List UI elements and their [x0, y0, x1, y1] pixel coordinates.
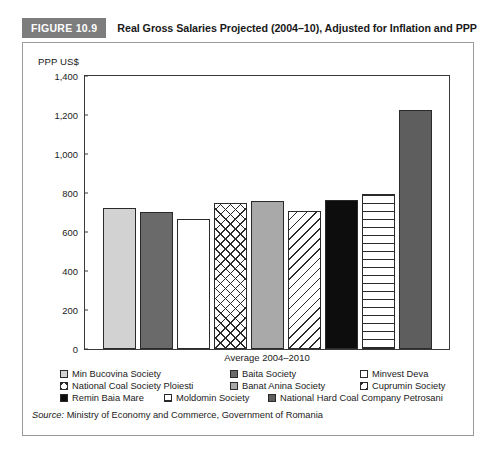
- legend-item: Moldomin Society: [164, 393, 268, 403]
- y-axis-tick-label: 1,200: [55, 110, 85, 121]
- figure-title: Real Gross Salaries Projected (2004–10),…: [106, 18, 477, 38]
- bar: [399, 110, 432, 349]
- y-axis-tick-label: 1,000: [55, 149, 85, 160]
- chart-legend: Min Bucovina SocietyBaita SocietyMinvest…: [60, 369, 458, 405]
- bar: [177, 219, 210, 349]
- legend-item: Minvest Deva: [360, 369, 428, 379]
- y-axis-tick-label: 600: [62, 227, 85, 238]
- legend-item-label: Baita Society: [242, 369, 296, 379]
- y-axis-title: PPP US$: [38, 56, 79, 67]
- bar: [103, 208, 136, 349]
- legend-swatch-icon: [230, 370, 238, 378]
- legend-item: National Coal Society Ploiesti: [60, 381, 230, 391]
- y-axis-tick-label: 1,400: [55, 71, 85, 82]
- source-label: Source:: [32, 410, 64, 420]
- bar: [288, 211, 321, 349]
- legend-item-label: Banat Anina Society: [242, 381, 325, 391]
- legend-item: National Hard Coal Company Petrosani: [268, 393, 443, 403]
- legend-item: Cuprumin Society: [360, 381, 445, 391]
- legend-item-label: National Coal Society Ploiesti: [72, 381, 193, 391]
- bar: [325, 200, 358, 349]
- figure-number-badge: FIGURE 10.9: [22, 18, 106, 38]
- bar: [214, 203, 247, 349]
- legend-swatch-icon: [60, 382, 68, 390]
- legend-item-label: Minvest Deva: [372, 369, 428, 379]
- legend-row: Remin Baia MareMoldomin SocietyNational …: [60, 393, 458, 403]
- x-axis-label: Average 2004–2010: [84, 352, 450, 363]
- y-axis-tick-label: 200: [62, 305, 85, 316]
- legend-swatch-icon: [164, 394, 172, 402]
- legend-item-label: Cuprumin Society: [372, 381, 445, 391]
- legend-swatch-icon: [230, 382, 238, 390]
- legend-item: Banat Anina Society: [230, 381, 360, 391]
- legend-row: National Coal Society PloiestiBanat Anin…: [60, 381, 458, 391]
- source-text: Ministry of Economy and Commerce, Govern…: [64, 410, 323, 420]
- legend-swatch-icon: [60, 370, 68, 378]
- bar: [251, 201, 284, 349]
- legend-swatch-icon: [60, 394, 68, 402]
- legend-item: Remin Baia Mare: [60, 393, 164, 403]
- legend-row: Min Bucovina SocietyBaita SocietyMinvest…: [60, 369, 458, 379]
- source-note: Source: Ministry of Economy and Commerce…: [32, 410, 323, 420]
- figure-page: FIGURE 10.9 Real Gross Salaries Projecte…: [0, 0, 498, 459]
- legend-item-label: Min Bucovina Society: [72, 369, 161, 379]
- legend-item-label: National Hard Coal Company Petrosani: [280, 393, 443, 403]
- legend-item: Baita Society: [230, 369, 360, 379]
- plot-area: 02004006008001,0001,2001,400: [84, 75, 450, 350]
- figure-header: FIGURE 10.9 Real Gross Salaries Projecte…: [22, 18, 477, 38]
- legend-item: Min Bucovina Society: [60, 369, 230, 379]
- legend-swatch-icon: [268, 394, 276, 402]
- legend-swatch-icon: [360, 382, 368, 390]
- legend-item-label: Moldomin Society: [176, 393, 249, 403]
- legend-item-label: Remin Baia Mare: [72, 393, 144, 403]
- bar: [140, 212, 173, 349]
- y-axis-tick-label: 400: [62, 266, 85, 277]
- y-axis-tick-label: 800: [62, 188, 85, 199]
- bar-series: [85, 76, 449, 349]
- bar: [362, 194, 395, 349]
- legend-swatch-icon: [360, 370, 368, 378]
